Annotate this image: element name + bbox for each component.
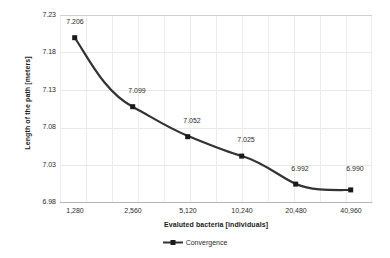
data-label-0: 7.206 (66, 18, 84, 25)
data-point-marker (239, 154, 244, 159)
y-tick-label: 7.08 (28, 123, 56, 131)
legend-line-marker-icon (163, 238, 183, 247)
data-label-3: 7.025 (237, 136, 255, 143)
y-tick-0: 7.23 (28, 11, 56, 19)
y-tick-label: 7.03 (28, 161, 56, 169)
data-point-marker (348, 187, 353, 192)
series-markers-convergence (72, 35, 353, 192)
x-tick-1: 2,560 (110, 206, 156, 216)
y-tick-4: 7.03 (28, 161, 56, 169)
plot-svg (60, 15, 372, 203)
x-tick-0: 1,280 (52, 206, 98, 216)
x-axis-title: Evaluted bacteria [individuals] (60, 221, 372, 228)
plot-area: 7.206 7.099 7.052 7.025 6.992 6.990 (60, 15, 372, 203)
vertical-gridlines (61, 15, 372, 203)
x-tick-label: 2,560 (110, 206, 156, 216)
chart-container: Length of the path [meters] 7.23 7.18 7.… (0, 0, 390, 258)
y-tick-label: 7.18 (28, 48, 56, 56)
data-point-marker (72, 35, 77, 40)
chart-legend: Convergence (0, 238, 390, 247)
series-line-convergence (75, 38, 351, 190)
x-tick-5: 40,960 (328, 206, 374, 216)
x-tick-label: 10,240 (219, 206, 265, 216)
data-label-5: 6.990 (346, 165, 364, 172)
data-point-marker (185, 134, 190, 139)
legend-label-convergence: Convergence (186, 239, 228, 246)
x-tick-label: 1,280 (52, 206, 98, 216)
x-tick-3: 10,240 (219, 206, 265, 216)
x-tick-4: 20,480 (273, 206, 319, 216)
data-point-marker (293, 182, 298, 187)
data-point-marker (130, 104, 135, 109)
x-tick-label: 5,120 (165, 206, 211, 216)
y-tick-label: 7.23 (28, 11, 56, 19)
y-tick-label: 7.13 (28, 86, 56, 94)
y-tick-2: 7.13 (28, 86, 56, 94)
data-label-1: 7.099 (128, 87, 146, 94)
y-tick-1: 7.18 (28, 48, 56, 56)
x-tick-label: 40,960 (328, 206, 374, 216)
y-tick-5: 6.98 (28, 198, 56, 206)
y-tick-3: 7.08 (28, 123, 56, 131)
x-tick-2: 5,120 (165, 206, 211, 216)
y-tick-label: 6.98 (28, 198, 56, 206)
x-tick-label: 20,480 (273, 206, 319, 216)
data-label-2: 7.052 (183, 117, 201, 124)
data-label-4: 6.992 (291, 165, 309, 172)
